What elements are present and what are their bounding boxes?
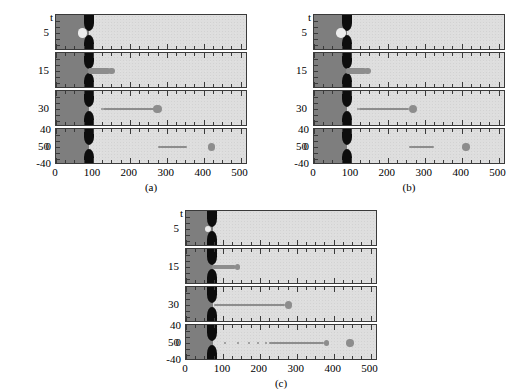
figure-root: t5153050400-400100200300400500(a)t515305… [0,0,517,389]
y-minor-tick [314,39,318,40]
y-minor-tick [56,97,60,98]
droplet [265,342,267,344]
x-axis-label-100: 100 [332,167,368,178]
x-minor-tick [471,91,472,94]
x-minor-tick [379,160,380,163]
y-minor-tick [186,279,190,280]
x-minor-tick [315,356,316,359]
x-minor-tick [102,53,103,56]
x-minor-tick [194,122,195,125]
x-minor-tick [334,354,335,359]
x-minor-tick [139,91,140,94]
x-minor-tick [148,160,149,163]
x-minor-tick [306,249,307,252]
x-minor-tick [93,44,94,49]
x-minor-tick [462,53,463,58]
y-minor-tick [56,39,60,40]
x-minor-tick [388,91,389,96]
x-minor-tick [269,356,270,359]
x-minor-tick [74,84,75,87]
x-minor-tick [324,325,325,328]
x-minor-tick [342,129,343,132]
x-minor-tick [260,316,261,321]
x-minor-tick [241,82,242,87]
x-minor-tick [222,91,223,94]
time-label-t30: 30 [275,103,307,114]
time-label-t15: 15 [17,65,49,76]
x-minor-tick [480,84,481,87]
x-minor-tick [416,84,417,87]
x-minor-tick [167,129,168,134]
x-minor-tick [352,356,353,359]
x-minor-tick [480,53,481,56]
droplet [324,340,329,345]
y-minor-tick [56,141,60,142]
x-minor-tick [371,278,372,283]
x-minor-tick [499,120,500,125]
x-minor-tick [121,84,122,87]
x-minor-tick [65,129,66,132]
x-minor-tick [204,129,205,134]
y-minor-tick [186,317,190,318]
x-minor-tick [489,53,490,56]
x-minor-tick [195,242,196,245]
x-axis-label-200: 200 [369,167,405,178]
x-minor-tick [369,53,370,56]
y-minor-tick [186,349,190,350]
x-minor-tick [288,287,289,290]
x-minor-tick [471,129,472,132]
nozzle-wall-bot [207,231,217,246]
panel-caption: (c) [261,377,301,389]
x-minor-tick [361,318,362,321]
y-minor-tick [314,83,318,84]
x-minor-tick [343,356,344,359]
x-minor-tick [324,242,325,245]
x-minor-tick [139,84,140,87]
x-minor-tick [342,91,343,94]
y-minor-tick [186,241,190,242]
x-minor-tick [195,280,196,283]
x-minor-tick [314,53,315,58]
x-minor-tick [185,91,186,94]
x-minor-tick [334,325,335,330]
x-minor-tick [65,160,66,163]
x-minor-tick [371,287,372,292]
x-minor-tick [121,160,122,163]
x-minor-tick [489,84,490,87]
x-minor-tick [241,120,242,125]
x-minor-tick [369,46,370,49]
x-minor-tick [314,91,315,96]
x-minor-tick [371,249,372,254]
x-minor-tick [158,84,159,87]
x-minor-tick [241,287,242,290]
x-minor-tick [111,129,112,132]
x-minor-tick [334,316,335,321]
x-minor-tick [332,160,333,163]
x-minor-tick [443,160,444,163]
x-minor-tick [343,280,344,283]
x-minor-tick [343,287,344,290]
x-minor-tick [443,129,444,132]
y-minor-tick [314,65,318,66]
x-minor-tick [84,46,85,49]
x-minor-tick [397,129,398,132]
y-minor-tick [314,115,318,116]
x-minor-tick [232,318,233,321]
x-axis-label-200: 200 [111,167,147,178]
snapshot-frame-t30 [55,90,247,126]
x-minor-tick [343,325,344,328]
x-axis-label-0: 0 [167,363,203,374]
x-minor-tick [176,160,177,163]
x-minor-tick [121,129,122,132]
droplet [208,143,215,150]
nozzle-wall-bot [207,269,217,284]
x-minor-tick [480,91,481,94]
x-minor-tick [352,287,353,290]
x-minor-tick [158,160,159,163]
x-minor-tick [379,91,380,94]
x-minor-tick [223,240,224,245]
y-minor-tick [56,103,60,104]
x-minor-tick [315,249,316,252]
jet-filament [103,108,154,110]
x-minor-tick [334,287,335,292]
